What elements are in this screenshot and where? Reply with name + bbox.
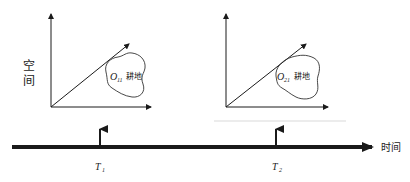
time-axis-label: 时间 xyxy=(381,141,401,153)
spatiotemporal-diagram: 空 间 O 11 耕地 O 21 耕地 时间 T 1 xyxy=(0,0,410,182)
svg-text:2: 2 xyxy=(279,167,282,173)
svg-text:T: T xyxy=(272,161,279,172)
svg-text:1: 1 xyxy=(102,167,105,173)
diagonal-arrow xyxy=(51,44,129,107)
svg-text:T: T xyxy=(95,161,102,172)
time-marker-t1: T 1 xyxy=(95,129,105,173)
svg-text:11: 11 xyxy=(117,77,123,83)
svg-text:耕地: 耕地 xyxy=(126,71,142,81)
panel-1: O 11 耕地 xyxy=(51,14,151,107)
space-label-char-1: 空 xyxy=(23,59,35,73)
object-label: O 21 耕地 xyxy=(277,71,310,83)
svg-text:21: 21 xyxy=(284,77,290,83)
space-axis-label: 空 间 xyxy=(23,59,35,88)
object-label: O 11 耕地 xyxy=(110,71,142,83)
space-label-char-2: 间 xyxy=(23,74,35,88)
panel-2: O 21 耕地 xyxy=(226,14,328,107)
svg-text:耕地: 耕地 xyxy=(294,71,310,81)
time-marker-t2: T 2 xyxy=(272,129,282,173)
